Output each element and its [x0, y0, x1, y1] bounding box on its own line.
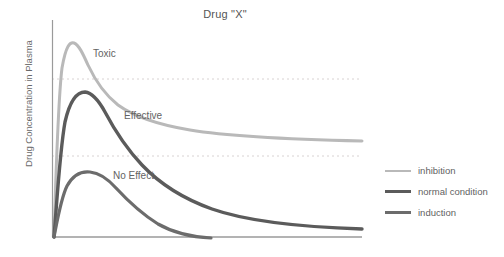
legend-item-inhibition: inhibition: [385, 160, 501, 181]
annotation-effective: Effective: [124, 110, 162, 121]
legend-swatch-normal-condition: [385, 190, 411, 193]
legend-item-induction: induction: [385, 202, 501, 223]
data-curves: [54, 43, 362, 238]
chart-legend: inhibition normal condition induction: [385, 160, 501, 223]
legend-label-induction: induction: [418, 207, 456, 218]
legend-item-normal-condition: normal condition: [385, 181, 501, 202]
legend-label-normal-condition: normal condition: [418, 186, 488, 197]
chart-figure: Drug "X" Drug Concentration in Plasma To…: [0, 0, 504, 257]
y-axis-label: Drug Concentration in Plasma: [23, 24, 34, 184]
legend-label-inhibition: inhibition: [418, 165, 456, 176]
legend-swatch-inhibition: [385, 170, 411, 172]
chart-title: Drug "X": [160, 8, 290, 20]
curve-normal-condition: [54, 92, 362, 237]
curve-induction: [54, 172, 211, 238]
gridlines: [52, 79, 362, 156]
annotation-toxic: Toxic: [93, 48, 116, 59]
legend-swatch-induction: [385, 211, 411, 214]
annotation-no-effect: No Effect: [113, 170, 154, 181]
